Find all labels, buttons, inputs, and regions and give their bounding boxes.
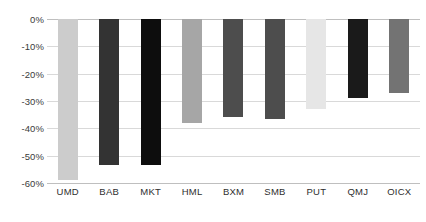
y-axis-tick-label: -20%: [2, 68, 44, 79]
x-axis-tick-label-umd: UMD: [47, 186, 88, 197]
bar-umd[interactable]: [58, 19, 78, 180]
bar-bab[interactable]: [99, 19, 119, 165]
y-axis-tick-label: -30%: [2, 96, 44, 107]
x-axis-tick-label-smb: SMB: [254, 186, 295, 197]
bar-hml[interactable]: [182, 19, 202, 123]
bar-slot: [47, 19, 88, 183]
x-axis-tick-label-oicx: OICX: [379, 186, 420, 197]
bar-slot: [171, 19, 212, 183]
bar-slot: [296, 19, 337, 183]
x-axis: UMDBABMKTHMLBXMSMBPUTQMJOICX: [47, 186, 420, 206]
x-axis-tick-label-qmj: QMJ: [337, 186, 378, 197]
y-axis: 0%-10%-20%-30%-40%-50%-60%: [0, 19, 44, 183]
gridline: [47, 183, 420, 184]
y-axis-tick-label: -10%: [2, 41, 44, 52]
bar-slot: [88, 19, 129, 183]
y-axis-tick-label: 0%: [2, 14, 44, 25]
y-axis-tick-label: -40%: [2, 123, 44, 134]
y-axis-tick-label: -60%: [2, 178, 44, 189]
x-axis-tick-label-put: PUT: [296, 186, 337, 197]
x-axis-tick-label-mkt: MKT: [130, 186, 171, 197]
bar-slot: [337, 19, 378, 183]
plot-area: [47, 19, 420, 183]
bar-slot: [379, 19, 420, 183]
bar-smb[interactable]: [265, 19, 285, 119]
bar-bxm[interactable]: [223, 19, 243, 117]
x-axis-tick-label-bab: BAB: [88, 186, 129, 197]
y-axis-tick-label: -50%: [2, 150, 44, 161]
bar-slot: [254, 19, 295, 183]
bar-put[interactable]: [306, 19, 326, 109]
x-axis-tick-label-hml: HML: [171, 186, 212, 197]
bar-slot: [130, 19, 171, 183]
bar-oicx[interactable]: [389, 19, 409, 93]
x-axis-tick-label-bxm: BXM: [213, 186, 254, 197]
bar-chart: 0%-10%-20%-30%-40%-50%-60% UMDBABMKTHMLB…: [0, 0, 426, 222]
bar-slot: [213, 19, 254, 183]
bar-qmj[interactable]: [348, 19, 368, 98]
bar-mkt[interactable]: [141, 19, 161, 165]
